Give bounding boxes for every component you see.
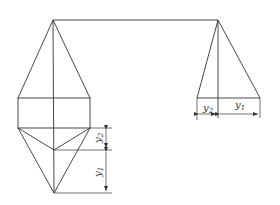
lower-right-edge (54, 128, 90, 193)
inner-left-edge (18, 128, 54, 150)
projection-drawing: y2 y1 y2 y1 (0, 0, 280, 205)
side-view: y2 y1 (197, 20, 260, 120)
front-dimensions: y2 y1 (54, 128, 112, 193)
front-view (18, 20, 218, 193)
inner-right-edge (54, 128, 90, 150)
label-y2-side: y2 (202, 102, 214, 115)
lower-left-edge (18, 128, 54, 193)
side-right-edge (218, 20, 260, 98)
center-axis (53, 20, 54, 193)
side-left-edge (197, 20, 218, 98)
label-y1-side: y1 (234, 99, 245, 112)
upper-left-edge (18, 20, 53, 98)
label-y2-front: y2 (92, 132, 105, 144)
upper-right-edge (53, 20, 90, 98)
drawing-canvas: y2 y1 y2 y1 (0, 0, 280, 205)
label-y1-front: y1 (92, 167, 105, 178)
